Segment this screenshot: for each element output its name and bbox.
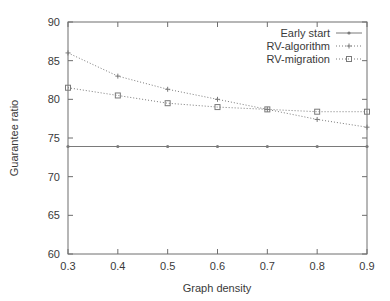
x-tick-label: 0.6 xyxy=(210,260,225,272)
x-tick-label: 0.4 xyxy=(110,260,125,272)
y-tick-label: 70 xyxy=(48,171,60,183)
y-tick-label: 80 xyxy=(48,93,60,105)
legend-label-early-start: Early start xyxy=(280,27,330,39)
y-axis-title: Guarantee ratio xyxy=(8,100,20,176)
y-tick-label: 60 xyxy=(48,248,60,260)
data-point-dot xyxy=(116,145,119,148)
data-point-dot xyxy=(66,145,69,148)
y-tick-label: 75 xyxy=(48,132,60,144)
x-tick-label: 0.7 xyxy=(260,260,275,272)
x-tick-label: 0.8 xyxy=(310,260,325,272)
y-tick-label: 90 xyxy=(48,16,60,28)
x-tick-label: 0.3 xyxy=(60,260,75,272)
legend-label-rv-migration: RV-migration xyxy=(267,53,330,65)
data-point-dot xyxy=(166,145,169,148)
legend-label-rv-algorithm: RV-algorithm xyxy=(267,40,330,52)
line-chart: 60657075808590 0.30.40.50.60.70.80.9 Ear… xyxy=(0,0,390,301)
x-tick-label: 0.9 xyxy=(359,260,374,272)
y-tick-label: 65 xyxy=(48,209,60,221)
x-axis-title: Graph density xyxy=(183,282,252,294)
data-point-dot xyxy=(365,145,368,148)
x-tick-label: 0.5 xyxy=(160,260,175,272)
data-point-dot xyxy=(216,145,219,148)
data-point-dot xyxy=(347,31,350,34)
series-group xyxy=(66,50,370,148)
data-point-dot xyxy=(316,145,319,148)
chart-legend: Early startRV-algorithmRV-migration xyxy=(267,27,362,65)
chart-container: 60657075808590 0.30.40.50.60.70.80.9 Ear… xyxy=(0,0,390,301)
y-tick-label: 85 xyxy=(48,55,60,67)
series-early-start xyxy=(66,145,368,148)
data-point-dot xyxy=(266,145,269,148)
